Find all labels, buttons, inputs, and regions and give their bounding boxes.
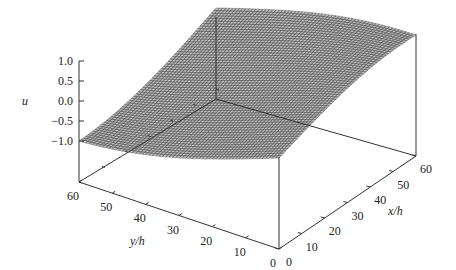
x-tick (389, 171, 393, 172)
y-axis-label: y/h (129, 234, 145, 248)
z-tick-label: 1.0 (58, 54, 73, 68)
z-tick-label: −0.5 (51, 114, 73, 128)
x-tick (298, 233, 302, 234)
surface-plot: −1.0−0.50.00.51.001020304050600102030405… (0, 0, 456, 270)
x-tick-label: 0 (286, 255, 292, 269)
z-tick-label: −1.0 (51, 134, 73, 148)
y-tick (112, 191, 115, 193)
x-tick (366, 186, 370, 187)
y-tick-label: 30 (167, 223, 179, 237)
y-tick (212, 225, 215, 227)
x-tick-label: 40 (374, 193, 386, 207)
x-tick (412, 155, 416, 156)
y-tick (146, 202, 149, 204)
back-x-tick (79, 182, 82, 183)
y-tick-label: 60 (67, 189, 79, 203)
x-tick (321, 217, 325, 218)
x-tick-label: 20 (329, 224, 341, 238)
x-axis-label: x/h (387, 204, 403, 218)
z-axis-label: u (22, 94, 28, 108)
y-tick-label: 40 (134, 211, 146, 225)
x-tick-label: 60 (420, 162, 432, 176)
y-tick (246, 236, 249, 238)
x-tick-label: 30 (352, 209, 364, 223)
y-tick-label: 20 (200, 234, 212, 248)
surface-faces (79, 8, 416, 159)
surface-mesh (79, 8, 416, 159)
z-tick-label: 0.0 (58, 94, 73, 108)
x-tick-label: 10 (306, 240, 318, 254)
y-tick-label: 10 (234, 245, 246, 259)
x-tick (275, 248, 279, 249)
y-tick-label: 50 (100, 200, 112, 214)
x-tick (344, 202, 348, 203)
z-tick-label: 0.5 (58, 74, 73, 88)
y-tick-label: 0 (270, 256, 276, 270)
x-tick-label: 50 (397, 178, 409, 192)
y-tick (179, 214, 182, 216)
